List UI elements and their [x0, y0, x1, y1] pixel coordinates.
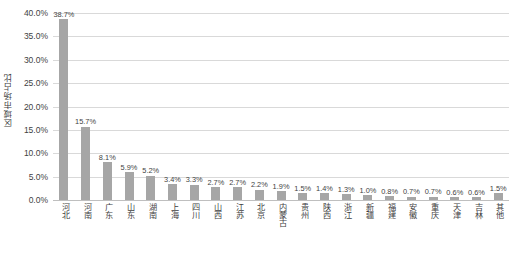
y-axis-tick-label: 15.0% — [24, 126, 48, 135]
bar-slot: 2.7% — [227, 13, 249, 200]
x-label-slot: 河北 — [53, 202, 75, 252]
x-axis-category-label: 天津 — [451, 203, 459, 219]
x-label-slot: 新疆 — [357, 202, 379, 252]
bar-slot: 3.4% — [162, 13, 184, 200]
bar[interactable] — [407, 197, 416, 200]
bar-value-label: 5.2% — [142, 167, 159, 174]
x-label-slot: 陕西 — [314, 202, 336, 252]
bar-slot: 0.6% — [444, 13, 466, 200]
y-axis-tick-label: 0.0% — [29, 196, 48, 205]
x-axis-category-label: 广东 — [103, 203, 111, 219]
bar[interactable] — [450, 197, 459, 200]
bar-value-label: 0.6% — [468, 189, 485, 196]
bar[interactable] — [233, 187, 242, 200]
x-axis-category-label: 上海 — [168, 203, 176, 219]
bar-value-label: 1.0% — [359, 187, 376, 194]
x-label-slot: 河南 — [75, 202, 97, 252]
bar-chart: 区域市场占比 40.0%35.0%30.0%25.0%20.0%15.0%10.… — [0, 0, 512, 253]
bar-value-label: 2.7% — [207, 179, 224, 186]
bar-slot: 1.5% — [487, 13, 509, 200]
x-axis-category-label: 四川 — [190, 203, 198, 219]
bar-value-label: 8.1% — [99, 154, 116, 161]
bar-value-label: 0.8% — [381, 188, 398, 195]
x-axis-category-label: 河南 — [81, 203, 89, 219]
x-label-slot: 福建 — [379, 202, 401, 252]
x-label-slot: 贵州 — [292, 202, 314, 252]
bar-value-label: 0.6% — [446, 189, 463, 196]
x-axis-category-label: 浙江 — [342, 203, 350, 219]
bar-value-label: 1.5% — [294, 185, 311, 192]
bar-value-label: 1.5% — [490, 185, 507, 192]
x-axis-category-label: 湖南 — [147, 203, 155, 219]
x-axis-category-label: 福建 — [386, 203, 394, 219]
bar[interactable] — [429, 197, 438, 200]
y-axis-tick-label: 25.0% — [24, 79, 48, 88]
x-axis-category-label: 山西 — [212, 203, 220, 219]
x-axis-category-label: 贵州 — [299, 203, 307, 219]
x-axis-category-label: 陕西 — [320, 203, 328, 219]
bar[interactable] — [81, 127, 90, 200]
bar-value-label: 38.7% — [53, 11, 74, 18]
bar[interactable] — [190, 185, 199, 200]
bar-slot: 2.2% — [248, 13, 270, 200]
bar-value-label: 1.9% — [273, 183, 290, 190]
bar-value-label: 1.4% — [316, 185, 333, 192]
bar-slot: 8.1% — [96, 13, 118, 200]
y-axis-tick-label: 40.0% — [24, 9, 48, 18]
bar[interactable] — [494, 193, 503, 200]
bar[interactable] — [342, 194, 351, 200]
bar[interactable] — [211, 187, 220, 200]
bar[interactable] — [255, 190, 264, 200]
x-label-slot: 其他 — [487, 202, 509, 252]
x-label-slot: 安徽 — [401, 202, 423, 252]
bar[interactable] — [472, 197, 481, 200]
bar-slot: 0.6% — [466, 13, 488, 200]
x-label-slot: 湖南 — [140, 202, 162, 252]
bar[interactable] — [59, 19, 68, 200]
x-axis-category-label: 其他 — [494, 203, 502, 219]
x-label-slot: 江苏 — [227, 202, 249, 252]
x-axis-category-label: 河北 — [60, 203, 68, 219]
y-axis-tick-labels: 40.0%35.0%30.0%25.0%20.0%15.0%10.0%5.0%0… — [14, 13, 50, 200]
bar-slot: 1.0% — [357, 13, 379, 200]
bar-value-label: 2.7% — [229, 179, 246, 186]
x-label-slot: 四川 — [183, 202, 205, 252]
x-label-slot: 上海 — [162, 202, 184, 252]
x-axis-category-label: 山东 — [125, 203, 133, 219]
bar[interactable] — [277, 191, 286, 200]
bar-value-label: 3.4% — [164, 176, 181, 183]
x-axis-category-label: 内蒙古 — [277, 203, 285, 227]
x-label-slot: 吉林 — [466, 202, 488, 252]
y-axis-tick-label: 10.0% — [24, 149, 48, 158]
bar-value-label: 0.7% — [425, 188, 442, 195]
bar-slot: 38.7% — [53, 13, 75, 200]
bar-slot: 3.3% — [183, 13, 205, 200]
bar-value-label: 2.2% — [251, 181, 268, 188]
bar[interactable] — [385, 196, 394, 200]
bar[interactable] — [320, 193, 329, 200]
bar[interactable] — [298, 193, 307, 200]
x-label-slot: 广东 — [96, 202, 118, 252]
bar-slot: 0.7% — [401, 13, 423, 200]
axis-baseline — [53, 200, 509, 201]
bar-series: 38.7%15.7%8.1%5.9%5.2%3.4%3.3%2.7%2.7%2.… — [53, 13, 509, 200]
y-axis-title-text: 区域市场占比 — [5, 73, 14, 127]
y-axis-tick-label: 20.0% — [24, 102, 48, 111]
bar-slot: 5.2% — [140, 13, 162, 200]
bar-value-label: 5.9% — [121, 164, 138, 171]
x-label-slot: 山东 — [118, 202, 140, 252]
y-axis-tick-label: 35.0% — [24, 32, 48, 41]
y-axis-tick-label: 30.0% — [24, 56, 48, 65]
bar[interactable] — [125, 172, 134, 200]
bar-value-label: 1.3% — [338, 186, 355, 193]
plot-area: 38.7%15.7%8.1%5.9%5.2%3.4%3.3%2.7%2.7%2.… — [53, 13, 509, 200]
bar-slot: 1.3% — [335, 13, 357, 200]
x-label-slot: 北京 — [248, 202, 270, 252]
x-axis-category-label: 安徽 — [407, 203, 415, 219]
bar-slot: 1.9% — [270, 13, 292, 200]
bar[interactable] — [363, 195, 372, 200]
x-axis-category-label: 新疆 — [364, 203, 372, 219]
bar[interactable] — [146, 176, 155, 200]
bar[interactable] — [168, 184, 177, 200]
bar[interactable] — [103, 162, 112, 200]
